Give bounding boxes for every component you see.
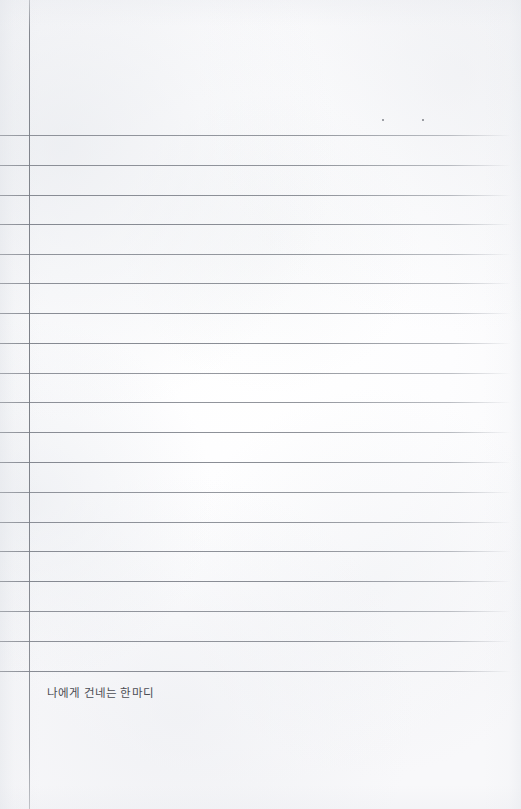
ruled-line — [0, 611, 511, 612]
ruled-line — [0, 135, 511, 136]
ruled-line — [0, 462, 511, 463]
ruled-line — [0, 373, 511, 374]
ruled-line — [0, 195, 511, 196]
ruled-line — [0, 671, 511, 672]
ruled-line — [0, 581, 511, 582]
ruled-line — [0, 283, 511, 284]
ruled-line — [0, 402, 511, 403]
ruled-line — [0, 165, 511, 166]
ruled-line — [0, 522, 511, 523]
scan-speck-right — [422, 119, 424, 121]
ruling-layer: 나에게 건네는 한마디 — [0, 0, 521, 809]
margin-rule-line — [29, 0, 30, 809]
scan-speck-left — [382, 119, 384, 121]
ruled-line — [0, 343, 511, 344]
ruled-line — [0, 224, 511, 225]
scanned-page: 나에게 건네는 한마디 — [0, 0, 521, 809]
ruled-line — [0, 641, 511, 642]
prompt-caption: 나에게 건네는 한마디 — [47, 686, 154, 700]
ruled-line — [0, 313, 511, 314]
ruled-line — [0, 551, 511, 552]
ruled-line — [0, 492, 511, 493]
ruled-line — [0, 254, 511, 255]
ruled-line — [0, 432, 511, 433]
